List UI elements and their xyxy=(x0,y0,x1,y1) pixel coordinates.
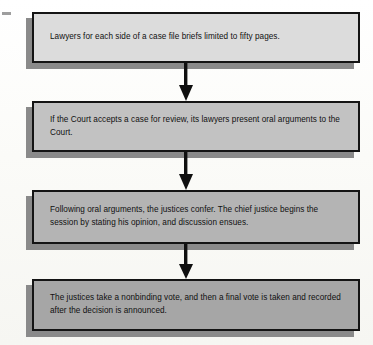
flow-arrow-2 xyxy=(175,152,197,190)
flow-arrow-3 xyxy=(175,244,197,279)
flow-step-4: The justices take a nonbinding vote, and… xyxy=(32,279,360,331)
flow-step-3: Following oral arguments, the justices c… xyxy=(32,190,360,244)
flow-step-4-label: The justices take a nonbinding vote, and… xyxy=(50,292,344,317)
flow-step-1-label: Lawyers for each side of a case file bri… xyxy=(50,31,280,44)
scan-artifact-mark xyxy=(2,12,11,15)
flow-step-3-label: Following oral arguments, the justices c… xyxy=(50,204,344,229)
flow-step-1: Lawyers for each side of a case file bri… xyxy=(32,12,360,63)
flowchart-diagram: Lawyers for each side of a case file bri… xyxy=(0,0,373,345)
flow-step-2: If the Court accepts a case for review, … xyxy=(32,101,360,152)
flow-step-2-label: If the Court accepts a case for review, … xyxy=(50,114,344,139)
flow-arrow-1 xyxy=(175,63,197,101)
